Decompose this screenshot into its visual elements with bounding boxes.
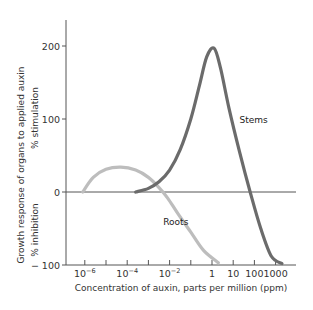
y-tick-label: 200 — [42, 41, 60, 52]
x-tick-label: 10−4 — [116, 267, 138, 279]
x-tick-label: 10 — [227, 268, 239, 279]
auxin-response-chart: 2001000− 100 10−610−410−21101001000 Grow… — [0, 0, 313, 310]
y-axis-subtitle-stimulation: % stimulation — [30, 87, 40, 149]
stems-label: Stems — [240, 115, 269, 125]
x-tick-label: 1 — [209, 268, 215, 279]
x-axis-title: Concentration of auxin, parts per millio… — [75, 283, 287, 293]
y-tick-label: 100 — [42, 114, 60, 125]
x-tick-label: 1000 — [264, 268, 288, 279]
roots-label: Roots — [163, 217, 188, 227]
y-tick-label: − 100 — [31, 260, 60, 271]
y-axis-title: Growth response of organs to applied aux… — [16, 67, 26, 264]
series-group: RootsStems — [83, 48, 282, 264]
y-axis-subtitle-inhibition: % inhibition — [30, 203, 40, 256]
roots-curve — [83, 167, 219, 263]
x-tick-label: 100 — [245, 268, 263, 279]
x-tick-label: 10−6 — [74, 267, 96, 279]
y-tick-label: 0 — [54, 187, 60, 198]
x-ticks: 10−610−410−21101001000 — [74, 260, 288, 279]
stems-curve — [136, 48, 282, 264]
x-tick-label: 10−2 — [159, 267, 181, 279]
